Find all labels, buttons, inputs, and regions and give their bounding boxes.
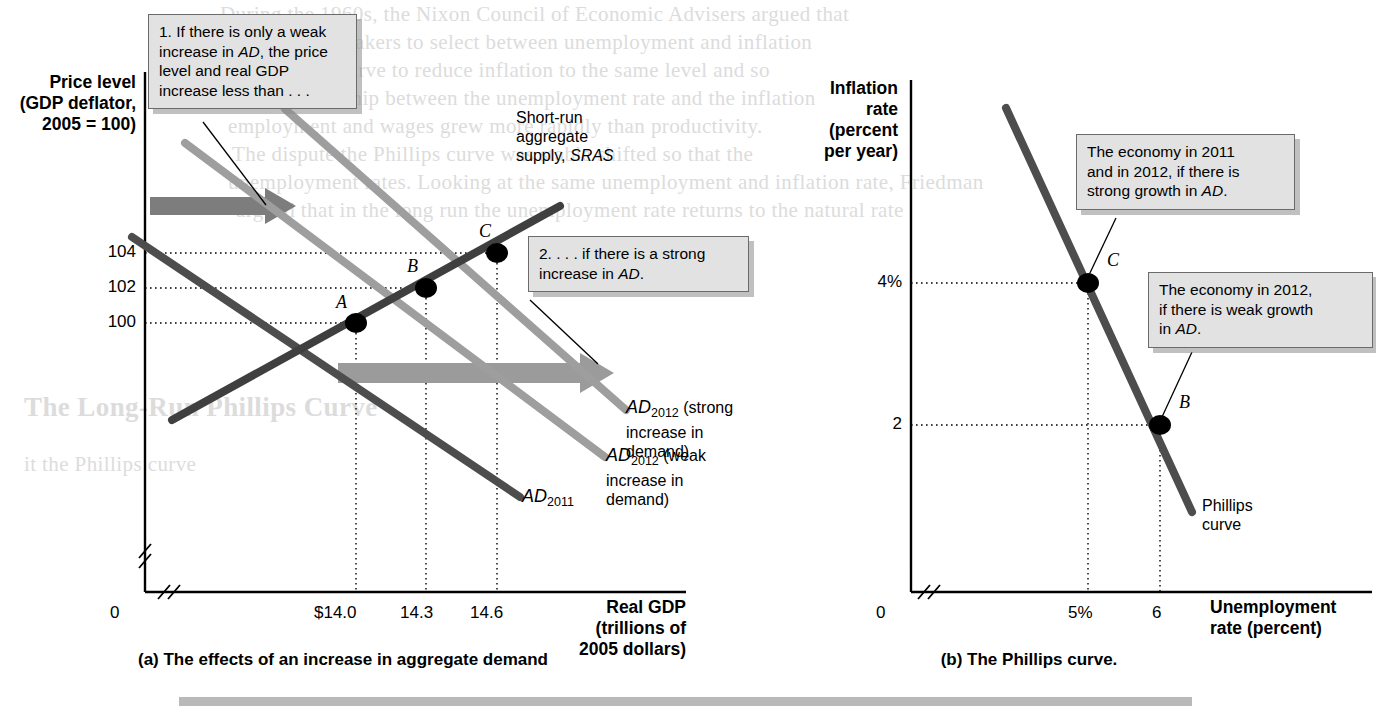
point-label-c: C — [479, 221, 491, 242]
panel-b-callout1-line2: and in 2012, if there is — [1087, 162, 1285, 182]
panel-b-y-tick-4: 4% — [850, 272, 902, 292]
panel-b-x-axis-title: Unemployment rate (percent) — [1210, 597, 1376, 639]
phillips-point-b — [1149, 415, 1171, 435]
callout-weak-growth: The economy in 2012, if there is weak gr… — [1148, 272, 1373, 348]
ad2012-strong-subscript: 2012 — [651, 406, 679, 420]
panel-b-x-tick-6: 6 — [1152, 603, 1161, 623]
panel-b-caption: (b) The Phillips curve. — [686, 650, 1372, 670]
panel-b-callout1-line3: strong growth in AD. — [1087, 181, 1285, 201]
x-tick-14-0: $14.0 — [314, 603, 357, 623]
equilibrium-point-b — [415, 278, 437, 298]
sras-curve — [172, 206, 560, 420]
panel-b-y-title-line3: (percent — [758, 120, 898, 141]
callout-strong-growth: The economy in 2011 and in 2012, if ther… — [1076, 134, 1295, 210]
callout1-line4: increase less than . . . — [159, 81, 347, 101]
y-tick-100: 100 — [94, 312, 136, 332]
callout1-line3: level and real GDP — [159, 61, 347, 81]
panel-b-y-title-line4: per year) — [758, 141, 898, 162]
callout1-line2: increase in AD, the price — [159, 42, 347, 62]
panel-a-guides — [145, 253, 497, 592]
phillips-point-label-b: B — [1179, 392, 1190, 413]
y-axis-title-line3: 2005 = 100) — [0, 114, 136, 135]
phillips-point-label-c: C — [1107, 250, 1119, 271]
y-tick-102: 102 — [94, 277, 136, 297]
ad2011-label: AD2011 — [522, 487, 574, 512]
ad2012-weak-prefix: AD — [606, 445, 631, 465]
sras-label-line1: Short-run — [516, 108, 614, 127]
sras-curve-label: Short-run aggregate supply, SRAS — [516, 108, 614, 165]
panel-a-caption: (a) The effects of an increase in aggreg… — [0, 650, 686, 670]
panel-b-y-title-line2: rate — [758, 99, 898, 120]
panel-b-y-tick-2: 2 — [850, 414, 902, 434]
equilibrium-point-a — [345, 313, 367, 333]
panel-phillips-curve: Inflation rate (percent per year) 4% 2 0… — [686, 0, 1372, 709]
panel-b-x-title-line2: rate (percent) — [1210, 618, 1376, 639]
ad2012-strong-prefix: AD — [626, 397, 651, 417]
panel-b-callout2-line1: The economy in 2012, — [1159, 280, 1363, 300]
phillips-label-line2: curve — [1202, 515, 1253, 534]
sras-label-line3-text: supply, SRAS — [516, 147, 614, 164]
panel-a-y-axis-title: Price level (GDP deflator, 2005 = 100) — [0, 72, 136, 135]
x-axis-title-line1: Real GDP — [552, 597, 686, 618]
footer-rule — [179, 697, 1192, 706]
callout-weak-increase: 1. If there is only a weak increase in A… — [148, 14, 357, 109]
point-label-b: B — [407, 256, 418, 277]
panel-aggregate-demand: Price level (GDP deflator, 2005 = 100) 1… — [0, 0, 686, 709]
y-axis-title-line2: (GDP deflator, — [0, 93, 136, 114]
ad2011-prefix: AD — [522, 486, 547, 506]
x-tick-14-6: 14.6 — [470, 603, 503, 623]
point-label-a: A — [336, 292, 347, 313]
sras-label-line2: aggregate — [516, 127, 614, 146]
x-tick-14-3: 14.3 — [400, 603, 433, 623]
y-axis-title-line1: Price level — [0, 72, 136, 93]
panel-b-callout2-line3: in AD. — [1159, 319, 1363, 339]
panel-b-callout2-line2: if there is weak growth — [1159, 300, 1363, 320]
y-tick-104: 104 — [94, 242, 136, 262]
panel-b-guides — [911, 283, 1160, 592]
panel-b-y-title-line1: Inflation — [758, 78, 898, 99]
panel-b-callout1-line1: The economy in 2011 — [1087, 142, 1285, 162]
panel-a-origin-label: 0 — [110, 603, 119, 623]
panel-b-y-axis-title: Inflation rate (percent per year) — [758, 78, 898, 162]
panel-b-x-title-line1: Unemployment — [1210, 597, 1376, 618]
sras-label-line3: supply, SRAS — [516, 146, 614, 165]
phillips-curve-label: Phillips curve — [1202, 496, 1253, 534]
callout1-line1: 1. If there is only a weak — [159, 22, 347, 42]
phillips-point-c — [1077, 273, 1099, 293]
ad2011-subscript: 2011 — [547, 495, 574, 509]
equilibrium-point-c — [486, 243, 508, 263]
phillips-label-line1: Phillips — [1202, 496, 1253, 515]
x-axis-title-line2: (trillions of — [552, 618, 686, 639]
ad2012-weak-subscript: 2012 — [631, 454, 659, 468]
panel-b-x-tick-5: 5% — [1068, 603, 1093, 623]
panel-b-origin-label: 0 — [876, 603, 885, 623]
